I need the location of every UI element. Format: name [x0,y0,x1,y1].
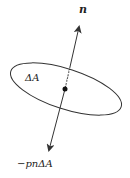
force-vector-arrow [49,89,65,150]
center-point [63,87,68,92]
force-label: −pnΔA [17,158,53,169]
area-label: ΔA [25,72,39,83]
diagram-canvas: n ΔA −pnΔA [0,0,130,178]
diagram-graphic [0,0,130,178]
normal-label: n [79,3,87,16]
